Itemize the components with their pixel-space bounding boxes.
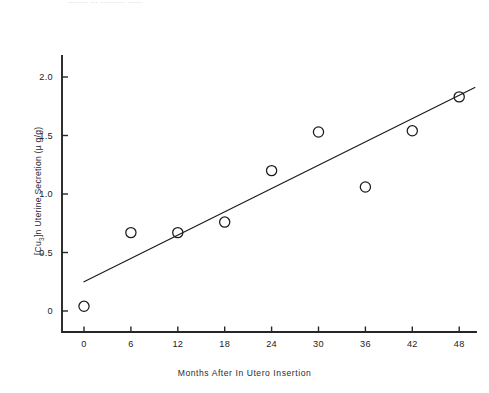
data-point-marker <box>360 182 370 192</box>
data-point-marker <box>267 166 277 176</box>
x-tick-label: 12 <box>172 339 183 349</box>
trend-line <box>84 88 475 282</box>
x-axis-ticks: 0612182430364248 <box>81 327 464 350</box>
x-tick-label: 48 <box>454 339 465 349</box>
x-tick-label: 0 <box>81 339 86 349</box>
y-tick-label: 0.5 <box>39 248 53 258</box>
axis-lines <box>62 56 476 332</box>
x-tick-label: 36 <box>360 339 371 349</box>
y-tick-label: 2.0 <box>39 72 53 82</box>
x-tick-label: 42 <box>407 339 418 349</box>
x-tick-label: 24 <box>266 339 277 349</box>
y-axis-ticks: 00.51.01.52.0 <box>39 72 68 316</box>
y-tick-label: 1.0 <box>39 189 53 199</box>
data-point-marker <box>407 126 417 136</box>
data-point-marker <box>220 217 230 227</box>
figure-panel: ........ ... .......... ...... [Cu3]n Ut… <box>0 0 489 393</box>
data-point-marker <box>313 127 323 137</box>
data-point-marker <box>173 228 183 238</box>
data-point-marker <box>126 228 136 238</box>
x-tick-label: 6 <box>128 339 133 349</box>
regression-line <box>84 88 475 282</box>
x-tick-label: 18 <box>219 339 230 349</box>
plot-area: 0612182430364248 00.51.01.52.0 <box>0 0 489 393</box>
axes <box>62 56 476 332</box>
data-point-marker <box>79 301 89 311</box>
x-tick-label: 30 <box>313 339 324 349</box>
y-tick-label: 0 <box>48 306 53 316</box>
data-points <box>79 92 464 312</box>
y-tick-label: 1.5 <box>39 131 53 141</box>
